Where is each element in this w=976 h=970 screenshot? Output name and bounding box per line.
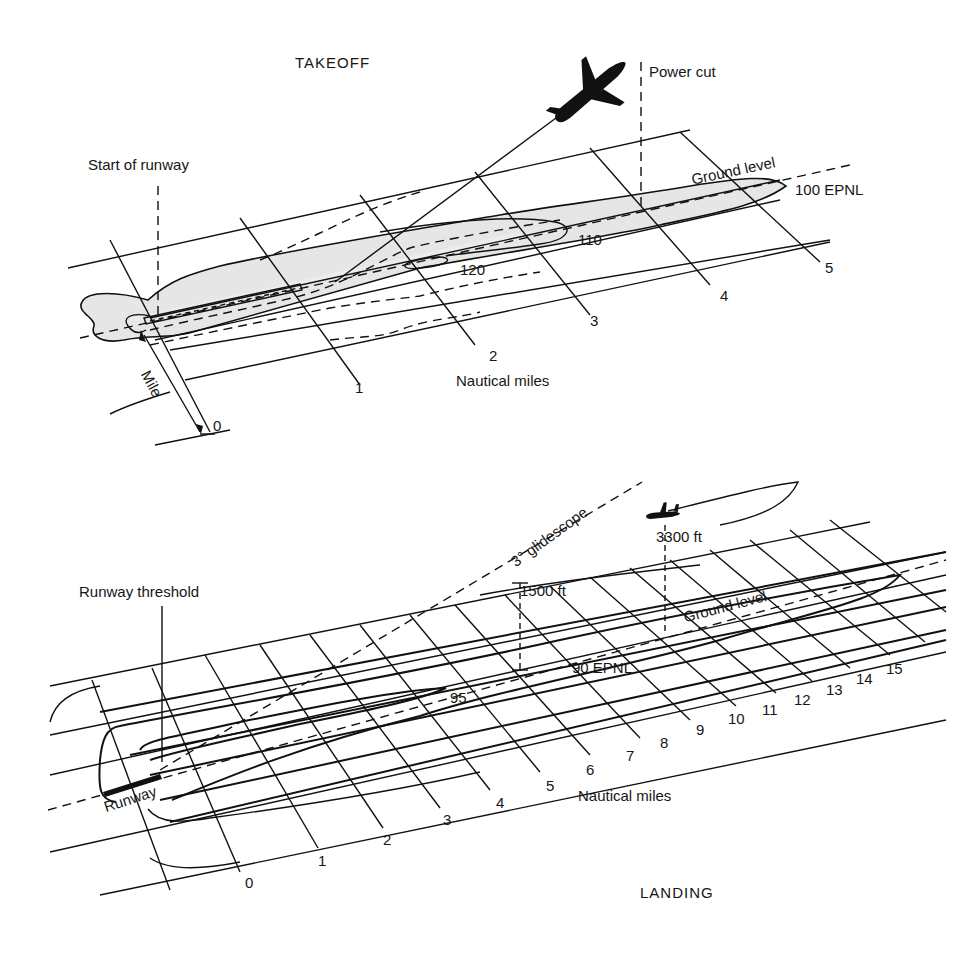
- takeoff-tick-3: 3: [590, 313, 598, 328]
- landing-tick-15: 15: [886, 661, 903, 676]
- contour-95: [140, 688, 446, 760]
- landing-tick-1: 1: [318, 853, 326, 868]
- contour-95-label: 95: [450, 690, 467, 705]
- noise-footprint-diagram: [0, 0, 976, 970]
- takeoff-airplane-icon: [535, 39, 644, 144]
- landing-airplane-icon: [645, 501, 680, 519]
- contour-110-label: 110: [578, 232, 602, 247]
- takeoff-tick-5: 5: [825, 260, 833, 275]
- altitude-3300-label: 3300 ft: [656, 529, 702, 544]
- landing-tick-8: 8: [660, 735, 668, 750]
- contour-100-epnl-label: 100 EPNL: [795, 182, 863, 197]
- landing-tick-11: 11: [762, 702, 778, 717]
- landing-tick-7: 7: [626, 748, 634, 763]
- landing-title: LANDING: [640, 885, 714, 900]
- landing-tick-14: 14: [856, 671, 873, 686]
- landing-tick-12: 12: [794, 692, 811, 707]
- landing-tick-0: 0: [245, 875, 253, 890]
- landing-tick-6: 6: [586, 762, 594, 777]
- landing-tick-5: 5: [546, 778, 554, 793]
- approach-path: [480, 565, 700, 595]
- takeoff-tick-2: 2: [489, 348, 497, 363]
- landing-nautical-miles-label: Nautical miles: [578, 788, 671, 803]
- contour-120-label: 120: [460, 262, 485, 277]
- takeoff-tick-0: 0: [213, 418, 221, 433]
- power-cut-label: Power cut: [649, 64, 716, 79]
- landing-tick-9: 9: [696, 722, 704, 737]
- landing-tick-4: 4: [496, 795, 504, 810]
- start-of-runway-label: Start of runway: [88, 157, 189, 172]
- landing-diagram: [48, 482, 946, 895]
- landing-tick-3: 3: [443, 812, 451, 827]
- landing-tick-2: 2: [383, 832, 391, 847]
- takeoff-nautical-miles-label: Nautical miles: [456, 373, 549, 388]
- altitude-1500-label: 1500 ft: [520, 583, 566, 598]
- landing-tick-10: 10: [728, 711, 745, 726]
- runway-threshold-label: Runway threshold: [79, 584, 199, 599]
- takeoff-tick-1: 1: [355, 380, 363, 395]
- contour-90-epnl-label: 90 EPNL: [572, 660, 632, 675]
- takeoff-title: TAKEOFF: [295, 55, 370, 70]
- takeoff-tick-4: 4: [720, 288, 728, 303]
- landing-tick-13: 13: [826, 682, 843, 697]
